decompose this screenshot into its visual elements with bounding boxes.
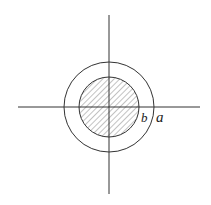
label-a: a [156, 109, 164, 125]
label-b: b [141, 110, 148, 125]
diagram-canvas: b a [0, 0, 211, 205]
diagram-svg: b a [0, 0, 211, 205]
